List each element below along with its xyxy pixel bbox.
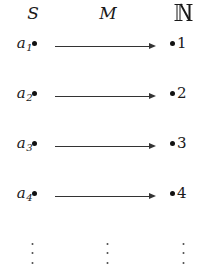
source-symbol: a <box>17 184 26 202</box>
arrow-shaft <box>55 146 151 147</box>
source-node-dot <box>32 41 37 46</box>
ellipsis-row <box>0 243 208 273</box>
target-node-dot <box>170 91 175 96</box>
mapping-arrow-icon <box>55 42 156 50</box>
arrow-head <box>149 143 156 149</box>
table-row: a3 3 <box>0 133 208 159</box>
target-element-label: 4 <box>177 183 187 203</box>
arrow-shaft <box>55 96 151 97</box>
column-header-source: S <box>27 2 39 24</box>
mapping-arrow-icon <box>55 142 156 150</box>
source-element-label: a4 <box>17 183 33 205</box>
table-row: a4 4 <box>0 183 208 209</box>
column-header-target <box>177 2 192 24</box>
column-header-row: S M <box>0 0 208 26</box>
source-element-label: a3 <box>17 133 33 155</box>
arrow-head <box>149 93 156 99</box>
arrow-head <box>149 193 156 199</box>
mapping-arrow-icon <box>55 92 156 100</box>
vertical-ellipsis-icon-target <box>183 243 186 264</box>
target-node-dot <box>170 141 175 146</box>
blackboard-bold-n-icon <box>177 4 192 21</box>
target-element-label: 2 <box>177 83 187 103</box>
vertical-ellipsis-icon-map <box>107 243 110 264</box>
source-element-label: a2 <box>17 83 33 105</box>
target-element-label: 3 <box>177 133 187 153</box>
source-node-dot <box>32 141 37 146</box>
mapping-arrow-icon <box>55 192 156 200</box>
mapping-diagram: S M a1 1 a2 2 a3 3 a4 <box>0 0 208 274</box>
source-node-dot <box>32 191 37 196</box>
target-node-dot <box>170 41 175 46</box>
vertical-ellipsis-icon-source <box>32 243 35 264</box>
arrow-shaft <box>55 46 151 47</box>
arrow-head <box>149 43 156 49</box>
target-element-label: 1 <box>177 33 187 53</box>
source-symbol: a <box>17 84 26 102</box>
source-node-dot <box>32 91 37 96</box>
source-symbol: a <box>17 134 26 152</box>
arrow-shaft <box>55 196 151 197</box>
table-row: a2 2 <box>0 83 208 109</box>
target-node-dot <box>170 191 175 196</box>
column-header-map: M <box>99 2 116 24</box>
table-row: a1 1 <box>0 33 208 59</box>
source-element-label: a1 <box>17 33 33 55</box>
source-symbol: a <box>17 34 26 52</box>
